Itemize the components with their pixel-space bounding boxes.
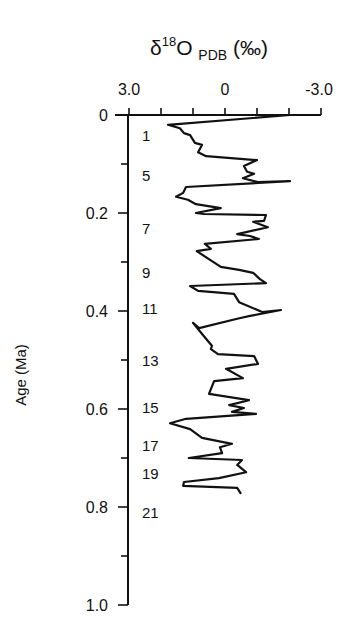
y-tick-label: 0.8 <box>86 499 108 516</box>
y-tick-label: 0.4 <box>86 303 108 320</box>
stage-label: 13 <box>142 352 159 369</box>
y-tick-label: 1.0 <box>86 597 108 614</box>
stage-label: 11 <box>142 300 158 317</box>
y-tick-label: 0.6 <box>86 401 108 418</box>
stage-label: 1 <box>142 127 150 144</box>
x-tick-label: 3.0 <box>118 81 140 98</box>
stage-label: 21 <box>142 504 159 521</box>
stage-label: 15 <box>142 399 159 416</box>
x-tick-label: -3.0 <box>305 81 333 98</box>
stage-label: 5 <box>142 167 150 184</box>
stage-label: 9 <box>142 264 150 281</box>
y-tick-label: 0 <box>99 107 108 124</box>
chart: δ18O PDB (‰) Age (Ma) 3.00-3.000.20.40.6… <box>0 0 356 643</box>
stage-label: 17 <box>142 437 159 454</box>
y-tick-label: 0.2 <box>86 205 108 222</box>
x-tick-label: 0 <box>221 81 230 98</box>
data-line <box>168 115 290 494</box>
plot-area: 3.00-3.000.20.40.60.81.01579111315171921 <box>0 0 356 643</box>
stage-label: 7 <box>142 220 150 237</box>
stage-label: 19 <box>142 465 159 482</box>
